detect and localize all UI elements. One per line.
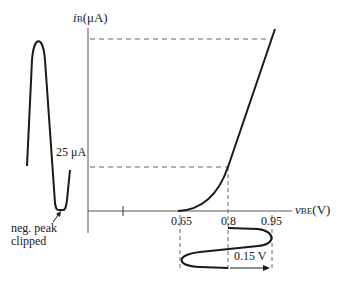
tick-label-0-95: 0.95 — [261, 215, 282, 227]
y-axis-label: iB(μA) — [73, 11, 108, 24]
x-axis-unit: (V) — [312, 202, 330, 217]
pointer-arrowhead-icon — [56, 211, 61, 217]
x-axis-subscript: BE — [301, 206, 313, 216]
tick-label-0-65: 0.65 — [171, 215, 192, 227]
y-axis-unit: (μA) — [83, 10, 108, 25]
clipping-note-line1: neg. peak — [11, 222, 57, 234]
diagram-canvas — [0, 0, 346, 284]
arrowhead-icon — [263, 265, 270, 271]
voltage-swing-label: 0.15 V — [234, 250, 266, 262]
x-axis-label: vBE(V) — [295, 203, 330, 216]
current-level-label: 25 μA — [56, 146, 86, 158]
transistor-input-characteristic-diagram: iB(μA) vBE(V) 0.65 0.8 0.95 25 μA neg. p… — [0, 0, 346, 284]
tick-label-0-8: 0.8 — [221, 215, 236, 227]
clipping-note-line2: clipped — [11, 235, 46, 247]
ib-output-waveform — [27, 41, 70, 210]
ib-vbe-characteristic-curve — [178, 29, 275, 211]
